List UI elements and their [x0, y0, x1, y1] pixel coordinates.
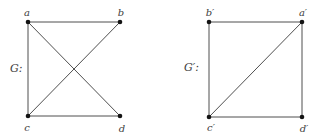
- graph-name-label-G-prime: G′:: [184, 61, 199, 74]
- vertex-d-prime: [300, 115, 305, 120]
- vertex-label-d-prime: d′: [300, 123, 309, 134]
- vertex-label-c: c: [24, 122, 30, 133]
- vertex-label-c-prime: c′: [207, 122, 216, 133]
- vertex-b: [118, 20, 123, 25]
- edge-c-prime-a-prime: [209, 22, 302, 117]
- graph-canvas: abcdG:b′a′c′d′G′:: [0, 0, 318, 137]
- graph-G: abcdG:: [10, 7, 125, 134]
- vertex-c-prime: [207, 115, 212, 120]
- graph-name-label-G: G:: [10, 62, 23, 75]
- vertex-label-b-prime: b′: [206, 7, 215, 18]
- vertex-a-prime: [300, 20, 305, 25]
- vertex-b-prime: [207, 20, 212, 25]
- vertex-d: [118, 114, 123, 119]
- vertex-a: [26, 20, 31, 25]
- vertex-label-a: a: [24, 7, 30, 18]
- vertex-c: [26, 114, 31, 119]
- vertex-label-d: d: [119, 123, 125, 134]
- vertex-label-a-prime: a′: [299, 7, 308, 18]
- graph-G-prime: b′a′c′d′G′:: [184, 7, 309, 134]
- graph-isomorphism-figure: abcdG:b′a′c′d′G′:: [0, 0, 318, 137]
- vertex-label-b: b: [118, 7, 124, 18]
